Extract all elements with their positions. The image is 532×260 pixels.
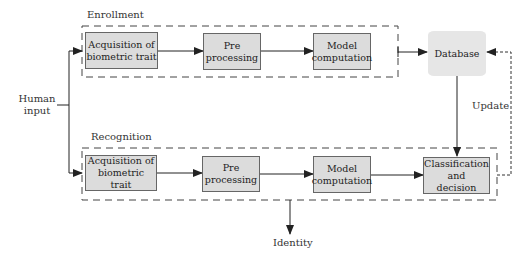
model-enroll-box: Model computation: [313, 33, 371, 70]
database-label: Database: [434, 48, 479, 59]
human-input-label: Human input: [17, 93, 57, 117]
acquisition-enroll-line1: Acquisition of: [86, 39, 156, 51]
preprocessing-enroll-line1: Pre: [206, 40, 258, 52]
acquisition-enroll-line2: biometric trait: [86, 51, 156, 63]
classification-line2: and: [424, 170, 489, 182]
preprocessing-recog-line1: Pre: [205, 162, 257, 174]
model-enroll-line2: computation: [312, 52, 372, 64]
human-input-line2: input: [17, 105, 57, 117]
model-recog-line2: computation: [312, 175, 372, 187]
update-label: Update: [472, 100, 509, 112]
enrollment-group-label: Enrollment: [87, 9, 144, 21]
human-input-line1: Human: [17, 93, 57, 105]
model-recog-box: Model computation: [313, 156, 371, 193]
acquisition-recog-line1: Acquisition of: [86, 155, 156, 167]
model-enroll-line1: Model: [312, 40, 372, 52]
acquisition-recog-line2: biometric trait: [86, 167, 156, 191]
recognition-group-label: Recognition: [91, 131, 152, 143]
classification-line1: Classification: [424, 158, 489, 170]
preprocessing-enroll-line2: processing: [206, 52, 258, 64]
database-node: Database: [428, 31, 486, 76]
preprocessing-enroll-box: Pre processing: [203, 33, 261, 70]
preprocessing-recog-box: Pre processing: [202, 156, 260, 192]
classification-line3: decision: [424, 182, 489, 194]
preprocessing-recog-line2: processing: [205, 174, 257, 186]
model-recog-line1: Model: [312, 163, 372, 175]
update-feedback-line: [487, 52, 511, 175]
acquisition-enroll-box: Acquisition of biometric trait: [85, 32, 158, 69]
classification-box: Classification and decision: [423, 157, 490, 194]
acquisition-recog-box: Acquisition of biometric trait: [85, 155, 157, 191]
identity-label: Identity: [273, 237, 313, 249]
